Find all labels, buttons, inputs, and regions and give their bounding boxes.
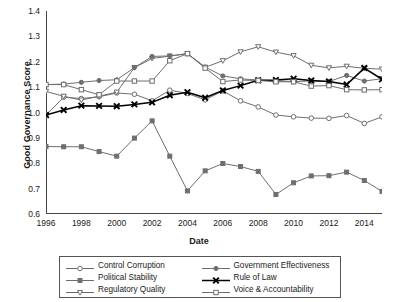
legend-item[interactable]: Control Corruption <box>65 260 201 271</box>
marker-down-triangle <box>256 45 261 50</box>
marker-open-square <box>115 79 119 83</box>
x-axis-tick-label: 2008 <box>238 218 278 228</box>
marker-open-square <box>132 79 136 83</box>
plot-area <box>46 11 382 214</box>
x-axis-title: Date <box>0 236 398 246</box>
marker-filled-square <box>78 278 82 282</box>
x-axis-tick-label: 1996 <box>26 218 66 228</box>
marker-filled-circle <box>132 65 136 69</box>
marker-filled-square <box>239 165 243 169</box>
marker-open-circle <box>309 116 314 121</box>
marker-down-triangle <box>79 98 84 103</box>
marker-open-circle <box>380 115 382 120</box>
series-political-stability <box>46 119 382 197</box>
legend-label: Government Effectiveness <box>231 261 330 270</box>
x-axis-tick-label: 2014 <box>344 218 384 228</box>
marker-down-triangle <box>238 50 243 55</box>
marker-filled-square <box>327 174 331 178</box>
marker-filled-square <box>132 136 136 140</box>
x-axis-tick-label: 2006 <box>203 218 243 228</box>
legend-row: Control CorruptionGovernment Effectivene… <box>65 259 336 271</box>
marker-down-triangle <box>220 59 225 64</box>
legend-key-open-circle-icon <box>65 260 95 271</box>
y-axis-tick-label: 1.1 <box>14 82 40 92</box>
marker-filled-square <box>62 145 66 149</box>
y-axis-tick-label: 1.4 <box>14 6 40 16</box>
marker-open-square <box>46 82 48 86</box>
marker-open-square <box>327 83 331 87</box>
y-axis-tick-label: 0.8 <box>14 158 40 168</box>
marker-filled-square <box>345 170 349 174</box>
marker-filled-square <box>256 169 260 173</box>
series-voice-accountability <box>46 51 382 97</box>
legend-label: Voice & Accountability <box>231 285 314 294</box>
marker-open-square <box>291 80 295 84</box>
marker-filled-circle <box>213 266 217 270</box>
marker-open-square <box>221 79 225 83</box>
marker-open-circle <box>327 116 332 121</box>
marker-filled-circle <box>221 74 225 78</box>
legend-item[interactable]: Government Effectiveness <box>201 260 337 271</box>
marker-filled-square <box>309 174 313 178</box>
marker-open-circle <box>362 121 367 126</box>
legend-label: Regulatory Quality <box>95 285 165 294</box>
marker-open-circle <box>344 113 349 118</box>
marker-open-square <box>238 78 242 82</box>
marker-filled-square <box>380 189 382 193</box>
marker-filled-square <box>46 145 48 149</box>
marker-open-square <box>203 66 207 70</box>
x-axis-tick-label: 2004 <box>167 218 207 228</box>
marker-open-square <box>309 84 313 88</box>
y-axis-tick-label: 1.2 <box>14 57 40 67</box>
x-axis-tick-label: 2000 <box>97 218 137 228</box>
marker-filled-square <box>168 154 172 158</box>
series-line <box>46 54 382 95</box>
marker-open-square <box>362 88 366 92</box>
marker-filled-square <box>221 162 225 166</box>
legend-key-bold-x-icon <box>201 272 231 283</box>
legend-label: Rule of Law <box>231 273 277 282</box>
y-axis-tick-label: 0.7 <box>14 184 40 194</box>
marker-open-square <box>61 82 65 86</box>
marker-open-circle <box>132 92 137 97</box>
x-axis-tick-label: 2002 <box>132 218 172 228</box>
legend-item[interactable]: Rule of Law <box>201 272 337 283</box>
line-chart-svg <box>46 11 382 214</box>
marker-open-square <box>380 87 382 91</box>
chart-legend: Control CorruptionGovernment Effectivene… <box>59 256 341 298</box>
y-axis-tick-label: 1.0 <box>14 108 40 118</box>
marker-open-square <box>185 51 189 55</box>
legend-label: Control Corruption <box>95 261 165 270</box>
marker-open-square <box>256 78 260 82</box>
series-line <box>46 121 382 195</box>
marker-filled-square <box>150 119 154 123</box>
x-axis-tick-label: 2012 <box>309 218 349 228</box>
legend-item[interactable]: Regulatory Quality <box>65 284 201 295</box>
marker-filled-square <box>203 169 207 173</box>
legend-key-open-square-icon <box>201 284 231 295</box>
marker-open-square <box>344 87 348 91</box>
marker-filled-circle <box>97 78 101 82</box>
marker-down-triangle <box>309 63 314 68</box>
marker-filled-circle <box>150 54 154 58</box>
legend-label: Political Stability <box>95 273 157 282</box>
series-rule-of-law <box>46 65 382 118</box>
legend-item[interactable]: Voice & Accountability <box>201 284 337 295</box>
marker-open-circle <box>167 88 172 93</box>
y-axis-tick-label: 1.3 <box>14 31 40 41</box>
legend-item[interactable]: Political Stability <box>65 272 201 283</box>
marker-filled-square <box>79 145 83 149</box>
legend-key-down-triangle-icon <box>65 284 95 295</box>
marker-filled-square <box>362 179 366 183</box>
marker-open-square <box>150 79 154 83</box>
marker-open-square <box>213 291 217 295</box>
marker-down-triangle <box>273 50 278 55</box>
marker-open-circle <box>291 115 296 120</box>
x-axis-tick-label: 2010 <box>274 218 314 228</box>
marker-filled-square <box>274 192 278 196</box>
marker-filled-circle <box>168 54 172 58</box>
marker-filled-circle <box>362 79 366 83</box>
x-axis-tick-label: 1998 <box>61 218 101 228</box>
marker-open-circle <box>274 113 279 118</box>
marker-open-square <box>274 80 278 84</box>
